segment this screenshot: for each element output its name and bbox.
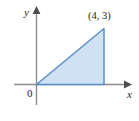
- figure-container: y x 0 (4, 3): [0, 0, 139, 121]
- y-axis-arrowhead-icon: [33, 6, 41, 14]
- x-axis-label: x: [127, 89, 132, 100]
- triangle-region-shape: [37, 29, 105, 85]
- y-axis-label: y: [24, 7, 29, 18]
- origin-label: 0: [27, 88, 33, 99]
- vertex-coordinate-label: (4, 3): [88, 11, 111, 22]
- coordinate-plane-svg: [0, 0, 139, 121]
